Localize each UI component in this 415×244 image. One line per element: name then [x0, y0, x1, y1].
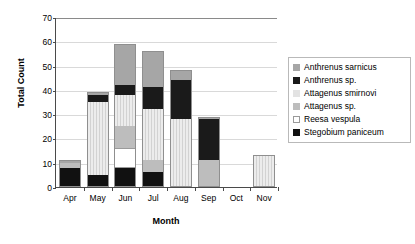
x-tick-mark: [84, 187, 85, 191]
plot-area: 010203040506070 AprMayJunJulAugSepOctNov: [55, 18, 277, 188]
bar-chart: Total Count 010203040506070 AprMayJunJul…: [0, 0, 415, 244]
x-tick-label-nov: Nov: [257, 194, 272, 203]
y-tick-label: 10: [22, 159, 52, 168]
y-tick-label: 60: [22, 38, 52, 47]
x-tick-label-apr: Apr: [63, 194, 76, 203]
legend-swatch-icon: [293, 64, 300, 71]
x-tick-mark: [167, 187, 168, 191]
legend-label: Attagenus smirnovi: [304, 89, 376, 98]
x-tick-mark: [195, 187, 196, 191]
legend-label: Anthrenus sarnicus: [304, 63, 377, 72]
x-tick-label-sep: Sep: [201, 194, 216, 203]
x-tick-mark: [223, 187, 224, 191]
y-tick-label: 20: [22, 135, 52, 144]
x-axis-title: Month: [55, 216, 277, 226]
legend-label: Anthrenus sp.: [304, 76, 356, 85]
x-tick-label-jun: Jun: [119, 194, 133, 203]
legend-swatch-icon: [293, 129, 300, 136]
legend-label: Stegobium paniceum: [304, 128, 384, 137]
legend-item[interactable]: Anthrenus sarnicus: [293, 61, 407, 74]
legend: Anthrenus sarnicusAnthrenus sp.Attagenus…: [288, 57, 411, 143]
legend-swatch-icon: [293, 103, 300, 110]
y-tick-mark: [53, 188, 56, 189]
legend-label: Attagenus sp.: [304, 102, 356, 111]
x-axis-ticks: AprMayJunJulAugSepOctNov: [56, 18, 277, 187]
legend-item[interactable]: Reesa vespula: [293, 113, 407, 126]
x-tick-mark: [278, 187, 279, 191]
y-tick-label: 30: [22, 111, 52, 120]
x-tick-label-aug: Aug: [173, 194, 188, 203]
y-tick-label: 50: [22, 62, 52, 71]
x-tick-label-jul: Jul: [148, 194, 159, 203]
legend-swatch-icon: [293, 77, 300, 84]
legend-swatch-icon: [293, 90, 300, 97]
legend-label: Reesa vespula: [304, 115, 360, 124]
legend-item[interactable]: Attagenus sp.: [293, 100, 407, 113]
y-tick-label: 0: [22, 184, 52, 193]
x-tick-label-may: May: [90, 194, 106, 203]
x-tick-mark: [139, 187, 140, 191]
legend-item[interactable]: Anthrenus sp.: [293, 74, 407, 87]
x-tick-label-oct: Oct: [230, 194, 243, 203]
x-tick-mark: [112, 187, 113, 191]
y-tick-label: 40: [22, 87, 52, 96]
x-tick-mark: [250, 187, 251, 191]
legend-swatch-icon: [293, 116, 300, 123]
legend-item[interactable]: Attagenus smirnovi: [293, 87, 407, 100]
legend-item[interactable]: Stegobium paniceum: [293, 126, 407, 139]
y-tick-label: 70: [22, 14, 52, 23]
